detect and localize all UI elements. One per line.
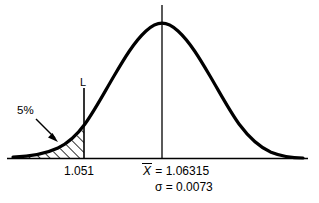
mean-label: X = 1.06315 [142,165,209,177]
tail-callout-arrow [36,119,58,142]
tail-percent-label: 5% [17,105,34,117]
normal-distribution-figure: 5% L 1.051 X = 1.06315 σ = 0.0073 [0,0,319,203]
limit-marker-label: L [80,77,86,88]
mean-value: = 1.06315 [152,164,209,178]
normal-curve [13,23,303,158]
mean-symbol: X [142,165,152,177]
sigma-label: σ = 0.0073 [155,181,213,193]
limit-value-label: 1.051 [64,165,94,177]
